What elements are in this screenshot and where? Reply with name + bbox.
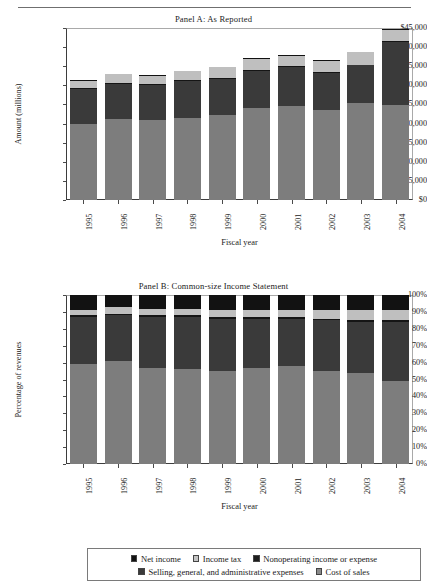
panel-b: Panel B: Common-size Income Statement 0%… [0, 281, 427, 524]
legend-item-label: Cost of sales [326, 567, 370, 577]
bar-segment [174, 71, 201, 80]
x-axis-tick-mark [83, 200, 84, 204]
bar-segment [139, 317, 166, 368]
running-head [18, 0, 409, 6]
x-axis-tick-mark [326, 200, 327, 204]
bar-1996 [105, 295, 132, 464]
x-axis-tick-mark [153, 200, 154, 204]
bar-segment [209, 67, 236, 78]
y-axis-tick-mark [63, 380, 67, 381]
legend-item-label: Nonoperating income or expense [263, 554, 377, 564]
bar-segment [139, 368, 166, 464]
bar-1995 [70, 295, 97, 464]
x-axis-tick-label: 2003 [364, 214, 372, 230]
bar-segment [243, 310, 270, 317]
bar-segment [313, 320, 340, 371]
x-axis-tick-label: 2001 [295, 214, 303, 230]
x-axis-tick-mark [361, 200, 362, 204]
bar-segment [278, 319, 305, 366]
x-axis-tick-mark [83, 464, 84, 468]
bar-segment [209, 115, 236, 200]
bar-2003 [347, 52, 374, 200]
x-axis-tick-label: 1997 [156, 478, 164, 494]
bar-segment [209, 310, 236, 317]
x-axis-tick-label: 1999 [225, 214, 233, 230]
legend-swatch-icon [131, 555, 138, 562]
y-axis-tick-mark [63, 104, 67, 105]
x-axis-tick-label: 1998 [190, 478, 198, 494]
bar-segment [347, 52, 374, 64]
y-axis-tick-mark [63, 162, 67, 163]
y-axis-tick-mark [63, 413, 67, 414]
y-axis-tick-mark [63, 200, 67, 201]
bar-1998 [174, 295, 201, 464]
x-axis-tick-mark [292, 200, 293, 204]
bar-segment [209, 371, 236, 464]
x-axis-tick-label: 2004 [399, 478, 407, 494]
legend-item: Income tax [193, 554, 241, 564]
x-axis-tick-mark [222, 464, 223, 468]
legend-swatch-icon [193, 555, 200, 562]
legend-item-label: Selling, general, and administrative exp… [148, 567, 303, 577]
x-axis-tick-label: 2002 [329, 478, 337, 494]
bar-segment [313, 310, 340, 318]
y-axis-tick-mark [63, 124, 67, 125]
x-axis-tick-label: 2001 [295, 478, 303, 494]
panel-a: Panel A: As Reported $0$5,000$10,000$15,… [0, 14, 427, 260]
x-axis-tick-label: 2000 [260, 478, 268, 494]
bar-segment [313, 295, 340, 310]
y-axis-tick-mark [63, 464, 67, 465]
bar-1995 [70, 80, 97, 200]
bar-1997 [139, 295, 166, 464]
y-axis-tick-mark [63, 295, 67, 296]
panel-a-x-axis-title: Fiscal year [66, 238, 413, 247]
legend-item-label: Net income [141, 554, 181, 564]
bar-segment [347, 103, 374, 200]
bar-segment [70, 81, 97, 88]
bar-segment [347, 295, 374, 310]
panel-a-plot: $0$5,000$10,000$15,000$20,000$25,000$30,… [0, 28, 427, 260]
legend-swatch-icon [316, 568, 323, 575]
bar-segment [347, 310, 374, 320]
bar-segment [382, 310, 409, 320]
x-axis-tick-mark [396, 200, 397, 204]
bar-2000 [243, 58, 270, 200]
x-axis-tick-mark [222, 200, 223, 204]
x-axis-tick-label: 1995 [86, 478, 94, 494]
y-axis-tick-mark [63, 346, 67, 347]
bar-segment [278, 67, 305, 105]
y-axis-tick-mark [63, 396, 67, 397]
bar-2001 [278, 295, 305, 464]
bar-segment [243, 71, 270, 108]
bar-segment [70, 364, 97, 464]
legend-item: Net income [131, 554, 181, 564]
y-axis-tick-mark [63, 66, 67, 67]
bar-segment [278, 56, 305, 67]
bar-segment [105, 315, 132, 361]
x-axis-tick-mark [361, 464, 362, 468]
x-axis-tick-label: 2000 [260, 214, 268, 230]
bar-1999 [209, 295, 236, 464]
bar-segment [243, 59, 270, 70]
legend-row-1: Net incomeIncome taxNonoperating income … [94, 552, 414, 565]
bar-2002 [313, 60, 340, 200]
x-axis-tick-mark [396, 464, 397, 468]
bar-segment [347, 322, 374, 373]
bar-segment [278, 310, 305, 317]
bar-segment [139, 76, 166, 84]
bar-segment [70, 295, 97, 310]
x-axis-tick-label: 1996 [121, 478, 129, 494]
x-axis-tick-label: 1998 [190, 214, 198, 230]
bar-segment [347, 373, 374, 464]
bar-1996 [105, 74, 132, 200]
bar-segment [347, 65, 374, 103]
x-axis-tick-label: 1999 [225, 478, 233, 494]
bar-segment [105, 307, 132, 314]
bar-2004 [382, 295, 409, 464]
legend-item: Selling, general, and administrative exp… [138, 567, 303, 577]
bar-1999 [209, 67, 236, 200]
panel-b-title: Panel B: Common-size Income Statement [0, 281, 427, 291]
x-axis-tick-mark [187, 200, 188, 204]
bar-segment [313, 73, 340, 110]
legend-swatch-icon [138, 568, 145, 575]
